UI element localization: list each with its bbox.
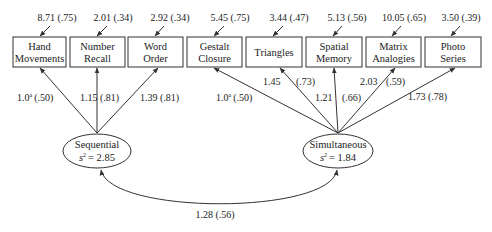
error-arrow-icon — [97, 26, 107, 36]
box-label: Photo — [441, 41, 466, 52]
factor-sequential: Sequential s2= 2.85 — [63, 134, 131, 168]
box-label: Recall — [84, 53, 111, 64]
loading-label-matrix-analogies-value: 2.03 — [360, 76, 378, 87]
error-label-number-recall: 2.01 (.34) — [93, 12, 132, 24]
error-arrow-icon — [333, 26, 342, 36]
loading-label-matrix-analogies-std: (.59) — [386, 76, 405, 88]
error-arrow-icon — [273, 26, 283, 36]
error-label-word-order: 2.92 (.34) — [150, 12, 189, 24]
box-label: Analogies — [372, 53, 415, 64]
covariance: 1.28 (.56) — [101, 170, 337, 221]
box-label: Number — [80, 41, 115, 52]
loading-label-gestalt-closure: 1.0a(.50) — [216, 92, 252, 104]
error-label-matrix-analogies: 10.05 (.65) — [382, 12, 426, 24]
loading-label-photo-series: 1.73 (.78) — [408, 91, 447, 103]
box-label: Triangles — [254, 47, 293, 58]
box-label: Series — [440, 53, 466, 64]
indicator-labels: Hand Movements Number Recall Word Order … — [15, 41, 466, 64]
error-arrow-icon — [451, 26, 460, 36]
double-arrow-icon — [101, 170, 337, 204]
error-label-spatial-memory: 5.13 (.56) — [327, 12, 366, 24]
loading-label-triangles-value: 1.45 — [263, 76, 281, 87]
sem-path-diagram: 8.71 (.75) 2.01 (.34) 2.92 (.34) 5.45 (.… — [0, 0, 492, 232]
loading-label-hand-movements: 1.0a(.50) — [17, 92, 53, 104]
error-label-triangles: 3.44 (.47) — [269, 12, 308, 24]
error-label-photo-series: 3.50 (.39) — [441, 12, 480, 24]
error-terms: 8.71 (.75) 2.01 (.34) 2.92 (.34) 5.45 (.… — [37, 12, 480, 36]
loading-label-spatial-memory-std: (.66) — [342, 92, 361, 104]
loading-label-number-recall-value: 1.15 — [80, 92, 98, 103]
loading-label-spatial-memory-value: 1.21 — [315, 92, 333, 103]
error-label-hand-movements: 8.71 (.75) — [37, 12, 76, 24]
box-label: Hand — [28, 41, 51, 52]
box-label: Matrix — [379, 41, 408, 52]
box-label: Word — [144, 41, 168, 52]
loading-label-number-recall-std: (.81) — [100, 92, 119, 104]
error-arrow-icon — [214, 26, 224, 36]
box-label: Movements — [15, 53, 65, 64]
box-label: Spatial — [319, 41, 348, 52]
factor-name-sequential: Sequential — [75, 139, 119, 150]
box-label: Order — [143, 53, 168, 64]
path-arrow-icon — [334, 68, 338, 133]
loading-label-word-order: 1.39 (.81) — [140, 92, 179, 104]
factor-simultaneous: Simultaneous s2= 1.84 — [303, 134, 373, 168]
error-arrow-icon — [392, 26, 401, 36]
error-label-gestalt-closure: 5.45 (.75) — [210, 12, 249, 24]
error-arrow-icon — [155, 26, 164, 36]
factor-name-simultaneous: Simultaneous — [309, 139, 366, 150]
error-arrow-icon — [40, 26, 50, 36]
box-label: Closure — [198, 53, 231, 64]
box-label: Gestalt — [200, 41, 230, 52]
loading-labels: 1.0a(.50) 1.15 (.81) 1.39 (.81) 1.0a(.50… — [17, 76, 447, 104]
box-label: Memory — [316, 53, 353, 64]
loading-label-triangles-std: (.73) — [296, 76, 315, 88]
covariance-label: 1.28 (.56) — [195, 209, 234, 221]
